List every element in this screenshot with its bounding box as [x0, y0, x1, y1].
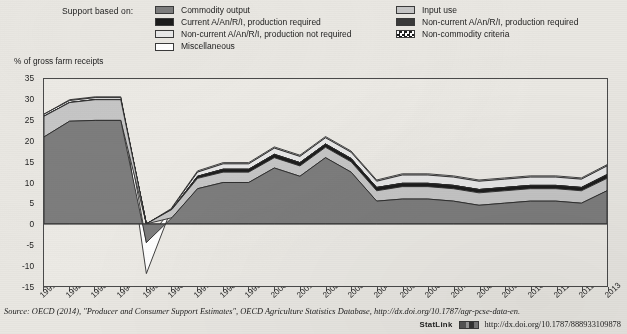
legend-item[interactable]: Current A/An/R/I, production required — [155, 16, 352, 28]
y-tick-label: 35 — [4, 73, 34, 83]
stacked-area-plot — [44, 79, 607, 286]
statlink-label: StatLink — [419, 320, 452, 329]
legend-title: Support based on: — [62, 6, 133, 16]
y-tick-label: -15 — [4, 282, 34, 292]
y-axis-title: % of gross farm receipts — [14, 56, 103, 66]
legend-swatch-icon — [396, 30, 415, 38]
legend-swatch-icon — [396, 6, 415, 14]
source-citation: OECD (2014), "Producer and Consumer Supp… — [32, 307, 520, 316]
statlink-barcode-icon — [459, 321, 479, 329]
legend-swatch-icon — [155, 18, 174, 26]
legend-item[interactable]: Non-commodity criteria — [396, 28, 578, 40]
source-prefix: Source: — [4, 307, 30, 316]
y-tick-label: 30 — [4, 94, 34, 104]
y-tick-label: -5 — [4, 240, 34, 250]
legend-item[interactable]: Miscellaneous — [155, 41, 352, 53]
legend-column-right: Input useNon-current A/An/R/I, productio… — [396, 4, 578, 41]
legend-item[interactable]: Commodity output — [155, 4, 352, 16]
legend-item-label: Non-current A/An/R/I, production not req… — [181, 30, 352, 39]
chart-area: % of gross farm receipts 35302520151050-… — [0, 53, 627, 305]
legend-item[interactable]: Non-current A/An/R/I, production not req… — [155, 28, 352, 40]
legend-item-label: Non-commodity criteria — [422, 30, 509, 39]
y-tick-label: -10 — [4, 261, 34, 271]
legend-item-label: Current A/An/R/I, production required — [181, 18, 321, 27]
legend-item[interactable]: Non-current A/An/R/I, production require… — [396, 16, 578, 28]
source-block: Source: OECD (2014), "Producer and Consu… — [0, 305, 627, 334]
legend-item-label: Input use — [422, 6, 457, 15]
plot-frame — [43, 78, 608, 287]
y-tick-label: 5 — [4, 198, 34, 208]
legend-swatch-icon — [155, 43, 174, 51]
chart-legend: Support based on: Commodity outputCurren… — [0, 0, 627, 53]
legend-item[interactable]: Input use — [396, 4, 578, 16]
legend-item-label: Non-current A/An/R/I, production require… — [422, 18, 578, 27]
statlink-url[interactable]: http://dx.doi.org/10.1787/888933109878 — [485, 320, 621, 329]
legend-swatch-icon — [155, 6, 174, 14]
y-tick-label: 25 — [4, 115, 34, 125]
y-tick-label: 10 — [4, 178, 34, 188]
source-text: Source: OECD (2014), "Producer and Consu… — [4, 307, 520, 316]
y-tick-label: 15 — [4, 157, 34, 167]
legend-swatch-icon — [396, 18, 415, 26]
legend-column-left: Commodity outputCurrent A/An/R/I, produc… — [155, 4, 352, 53]
y-tick-label: 0 — [4, 219, 34, 229]
legend-item-label: Commodity output — [181, 6, 250, 15]
legend-item-label: Miscellaneous — [181, 42, 235, 51]
legend-swatch-icon — [155, 30, 174, 38]
statlink-row[interactable]: StatLink http://dx.doi.org/10.1787/88893… — [0, 320, 627, 329]
y-tick-label: 20 — [4, 136, 34, 146]
